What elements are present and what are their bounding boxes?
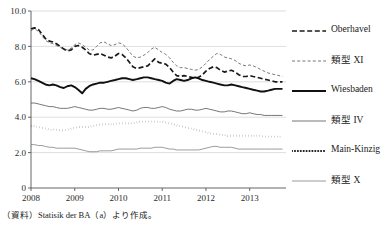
legend-swatch-icon (292, 83, 326, 95)
x-tick-label: 2012 (197, 193, 215, 203)
y-tick-label: 0 (22, 183, 27, 193)
legend-swatch-icon (292, 53, 326, 65)
legend-label: Wiesbaden (331, 84, 373, 94)
gridlines (31, 11, 286, 153)
x-tick-label: 2013 (241, 193, 260, 203)
source-note: （資料）Statisik der BA（a）より作成。 (2, 208, 157, 220)
y-tick-label: 6.0 (15, 77, 27, 87)
x-tick-label: 2011 (153, 193, 171, 203)
legend-swatch-icon (292, 113, 326, 125)
legend-label: Main-Kinzig (331, 144, 380, 154)
legend-item[interactable]: 類型 X (292, 164, 385, 194)
y-axis-ticks: 02.04.06.08.010.0 (10, 6, 31, 193)
legend-item[interactable]: 類型 IV (292, 104, 385, 134)
legend-swatch-icon (292, 173, 326, 185)
legend-swatch-icon (292, 23, 326, 35)
series-line-main-kinzig (31, 122, 283, 137)
y-tick-label: 8.0 (15, 42, 27, 52)
series-line-oberhavel (31, 28, 283, 82)
x-tick-label: 2008 (22, 193, 41, 203)
series-line-類型-xi (31, 29, 283, 77)
legend-item[interactable]: Oberhavel (292, 14, 385, 44)
legend-label: 類型 XI (331, 52, 363, 66)
legend-swatch-icon (292, 143, 326, 155)
series-line-類型-x (31, 145, 283, 152)
chart-legend: Oberhavel類型 XIWiesbaden類型 IVMain-Kinzig類… (292, 14, 385, 194)
legend-label: 類型 IV (331, 112, 363, 126)
legend-item[interactable]: Wiesbaden (292, 74, 385, 104)
legend-item[interactable]: 類型 XI (292, 44, 385, 74)
x-axis-ticks: 200820092010201120122013 (22, 188, 259, 203)
legend-label: Oberhavel (331, 24, 371, 34)
y-tick-label: 2.0 (15, 148, 27, 158)
chart-figure: 02.04.06.08.010.0 2008200920102011201220… (0, 0, 385, 225)
x-tick-label: 2010 (109, 193, 128, 203)
y-tick-label: 4.0 (15, 112, 27, 122)
x-tick-label: 2009 (66, 193, 85, 203)
y-tick-label: 10.0 (10, 6, 26, 16)
series-line-類型-iv (31, 103, 283, 115)
series-line-wiesbaden (31, 77, 283, 93)
legend-label: 類型 X (331, 172, 360, 186)
legend-item[interactable]: Main-Kinzig (292, 134, 385, 164)
